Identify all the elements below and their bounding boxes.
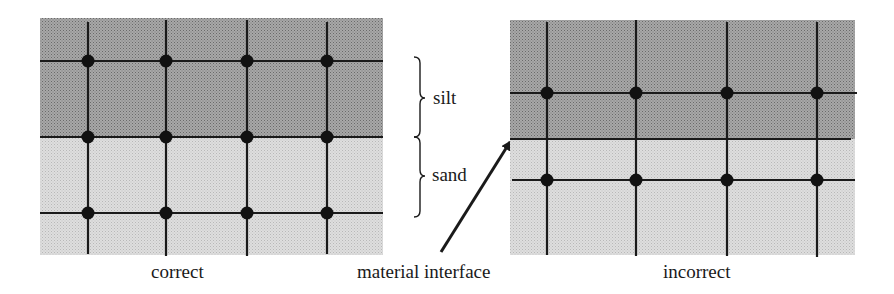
- correct-mesh-panel: [40, 18, 383, 256]
- incorrect-mesh-panel: [510, 20, 857, 257]
- layer-braces: [414, 57, 425, 217]
- silt-layer: [40, 18, 383, 137]
- sand-layer: [510, 139, 855, 255]
- interface-arrow: [441, 142, 510, 252]
- mesh-diagram: [0, 0, 894, 294]
- correct-caption: correct: [151, 262, 204, 281]
- incorrect-caption: incorrect: [663, 262, 731, 281]
- silt-label: silt: [433, 88, 456, 107]
- sand-brace: [414, 137, 425, 217]
- material-interface-label: material interface: [357, 262, 490, 281]
- sand-label: sand: [432, 165, 467, 184]
- sand-layer: [40, 137, 383, 255]
- silt-brace: [414, 57, 425, 137]
- silt-layer: [510, 20, 855, 139]
